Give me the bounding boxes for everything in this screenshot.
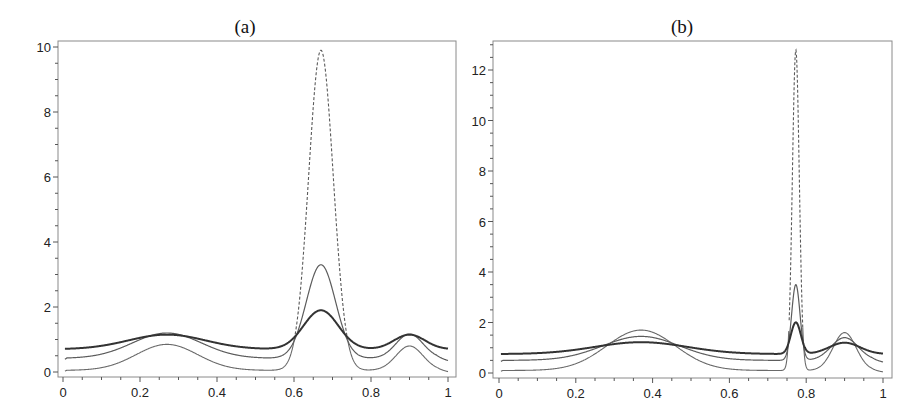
panel-b: (b) 02468101200.20.40.60.81	[472, 16, 892, 401]
curve-thick	[501, 322, 883, 354]
y-tick-label: 0	[479, 366, 486, 381]
y-tick-label: 6	[479, 215, 486, 230]
x-tick-label: 0.6	[720, 386, 738, 401]
x-tick-label: 0.8	[797, 386, 815, 401]
figure-canvas: (a) 024681000.20.40.60.81 (b) 0246810120…	[0, 0, 921, 413]
panel-b-axes: 02468101200.20.40.60.81	[472, 45, 887, 401]
x-tick-label: 0.8	[362, 385, 380, 400]
x-tick-label: 1	[879, 386, 886, 401]
curve-middle	[501, 285, 883, 362]
panel-a: (a) 024681000.20.40.60.81	[37, 16, 456, 400]
y-tick-label: 4	[44, 235, 51, 250]
y-tick-label: 2	[479, 316, 486, 331]
y-tick-label: 8	[479, 164, 486, 179]
x-tick-label: 0.6	[285, 385, 303, 400]
curve-thick	[65, 310, 448, 349]
curve-low-dashed-peak	[294, 50, 347, 339]
y-tick-label: 8	[44, 105, 51, 120]
panel-b-frame	[493, 41, 892, 378]
y-tick-label: 6	[44, 170, 51, 185]
panel-b-title: (b)	[671, 16, 693, 38]
y-tick-label: 2	[44, 300, 51, 315]
panel-a-title: (a)	[234, 16, 255, 38]
x-tick-label: 0.4	[644, 386, 662, 401]
y-tick-label: 10	[37, 40, 51, 55]
x-tick-label: 0.2	[131, 385, 149, 400]
curve-middle	[65, 265, 448, 361]
curve-low-solid	[65, 339, 448, 371]
y-tick-label: 0	[44, 365, 51, 380]
y-tick-label: 10	[472, 114, 486, 129]
x-tick-label: 0	[59, 385, 66, 400]
x-tick-label: 0	[495, 386, 502, 401]
figure: (a) 024681000.20.40.60.81 (b) 0246810120…	[0, 0, 921, 413]
x-tick-label: 1	[444, 385, 451, 400]
panel-a-frame	[58, 41, 456, 377]
x-tick-label: 0.4	[208, 385, 226, 400]
y-tick-label: 4	[479, 265, 486, 280]
panel-a-curves	[65, 50, 448, 371]
x-tick-label: 0.2	[567, 386, 585, 401]
panel-b-curves	[501, 50, 883, 372]
y-tick-label: 12	[472, 63, 486, 78]
